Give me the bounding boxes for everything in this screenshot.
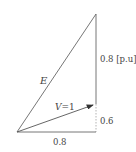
v-label: V=1 (55, 102, 75, 112)
e-label: E (39, 75, 48, 86)
horizontal-value-label: 0.8 (53, 137, 67, 147)
v-label-eq: =1 (62, 102, 75, 112)
phasor-diagram: E V=1 0.8 [p.u] 0.6 0.8 (0, 0, 136, 152)
e-phasor-line (17, 14, 96, 132)
vertical-top-value-label: 0.8 [p.u] (100, 54, 136, 64)
vertical-bottom-value-label: 0.6 (100, 116, 114, 126)
